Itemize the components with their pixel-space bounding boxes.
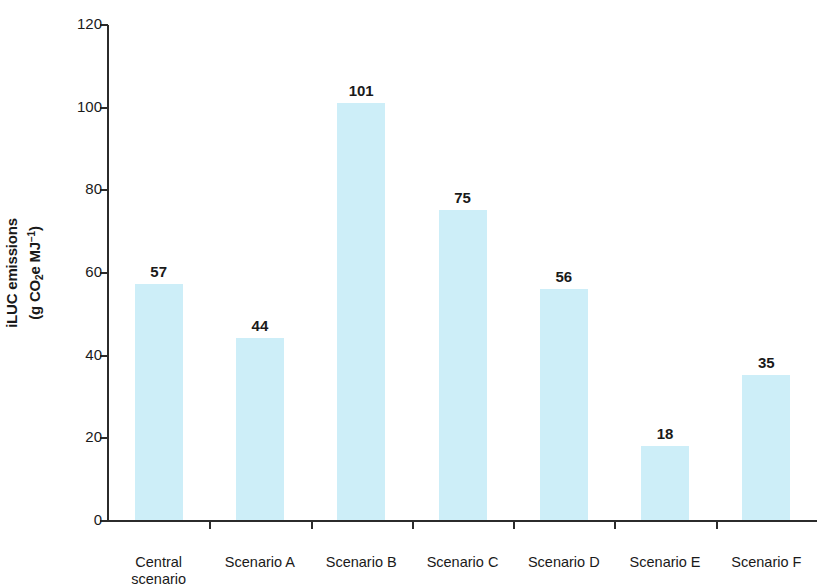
y-axis-title-line1: iLUC emissions bbox=[2, 218, 22, 328]
x-axis-category-label: Scenario D bbox=[509, 554, 619, 571]
x-axis-category-label: Scenario F bbox=[711, 554, 817, 571]
x-axis-line bbox=[107, 520, 817, 522]
x-axis-category-label: Centralscenario bbox=[104, 554, 214, 588]
y-axis-title-superscript: −1 bbox=[26, 231, 37, 242]
x-axis-category-label: Scenario A bbox=[205, 554, 315, 571]
x-axis-category-label-line: Scenario B bbox=[326, 554, 397, 570]
bar bbox=[135, 284, 183, 520]
bar bbox=[337, 103, 385, 520]
x-axis-category-label-line: scenario bbox=[104, 571, 214, 588]
y-axis-tick-label: 60 bbox=[56, 263, 102, 281]
bar bbox=[439, 210, 487, 520]
x-axis-tick-mark bbox=[311, 521, 313, 529]
y-axis-title-line2-post: ) bbox=[26, 226, 43, 231]
bar-value-label: 101 bbox=[321, 82, 401, 99]
bar bbox=[540, 289, 588, 520]
x-axis-tick-mark bbox=[716, 521, 718, 529]
bar-value-label: 57 bbox=[119, 263, 199, 280]
y-axis-tick-label: 40 bbox=[56, 346, 102, 364]
x-axis-category-label-line: Scenario F bbox=[731, 554, 801, 570]
bar bbox=[742, 375, 790, 520]
y-axis-title: iLUC emissions (g CO2e MJ−1) bbox=[0, 0, 52, 546]
bar bbox=[641, 446, 689, 520]
bar bbox=[236, 338, 284, 520]
bar-value-label: 35 bbox=[726, 354, 806, 371]
y-axis-title-text: iLUC emissions (g CO2e MJ−1) bbox=[2, 218, 50, 328]
bar-value-label: 56 bbox=[524, 268, 604, 285]
x-axis-category-label-line: Scenario C bbox=[427, 554, 499, 570]
x-axis-category-label-line: Scenario E bbox=[630, 554, 701, 570]
y-axis-title-line2: (g CO2e MJ−1) bbox=[22, 218, 50, 328]
y-axis-tick-label: 100 bbox=[56, 98, 102, 116]
y-axis-title-line2-mid: e MJ bbox=[26, 242, 43, 275]
y-axis-tick-label: 0 bbox=[56, 511, 102, 529]
x-axis-tick-mark bbox=[614, 521, 616, 529]
y-axis-tick-label: 80 bbox=[56, 180, 102, 198]
x-axis-category-label: Scenario B bbox=[306, 554, 416, 571]
y-axis-title-subscript: 2 bbox=[34, 275, 45, 280]
x-axis-category-label: Scenario C bbox=[408, 554, 518, 571]
x-axis-category-label-line: Scenario D bbox=[528, 554, 600, 570]
y-axis-title-line2-pre: (g CO bbox=[26, 280, 43, 320]
bar-value-label: 44 bbox=[220, 317, 300, 334]
x-axis-category-label: Scenario E bbox=[610, 554, 720, 571]
x-axis-category-label-line: Scenario A bbox=[225, 554, 295, 570]
bar-value-label: 18 bbox=[625, 425, 705, 442]
x-axis-tick-mark bbox=[412, 521, 414, 529]
plot-area: 020406080100120 574410175561835 Centrals… bbox=[108, 25, 817, 521]
x-axis-tick-mark bbox=[209, 521, 211, 529]
x-axis-tick-mark bbox=[513, 521, 515, 529]
y-axis-tick-label: 120 bbox=[56, 15, 102, 33]
bar-value-label: 75 bbox=[423, 189, 503, 206]
y-axis-tick-label: 20 bbox=[56, 428, 102, 446]
x-axis-category-label-line: Central bbox=[135, 554, 182, 570]
